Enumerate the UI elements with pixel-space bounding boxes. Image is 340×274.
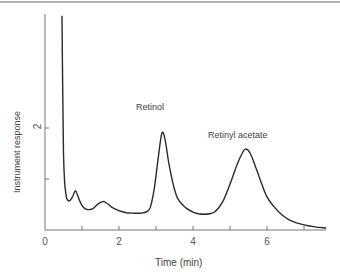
retinol-peak-label: Retinol [136, 102, 164, 112]
chromatogram-line [62, 16, 326, 228]
x-tick-label-0: 0 [42, 236, 48, 247]
y-tick-label-2: 2 [32, 124, 43, 130]
x-axis-label: Time (min) [155, 257, 202, 268]
chromatogram-plot [0, 0, 340, 274]
x-tick-label-6: 6 [264, 236, 270, 247]
x-tick-label-2: 2 [116, 236, 122, 247]
retinyl-acetate-peak-label: Retinyl acetate [208, 130, 268, 140]
chromatogram-figure: 0 2 4 6 2 Time (min) Instrument response… [0, 0, 340, 274]
y-axis-label: Instrument response [12, 111, 22, 193]
axes [45, 14, 326, 230]
x-tick-label-4: 4 [190, 236, 196, 247]
